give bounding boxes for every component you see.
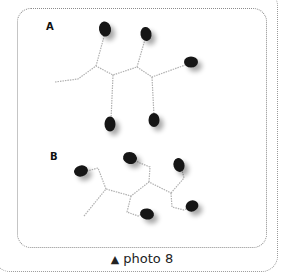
molecule-models-illustration — [0, 0, 284, 280]
molecule-b — [84, 160, 188, 216]
triangle-marker-icon: ▲ — [111, 253, 119, 266]
figure-caption: ▲photo 8 — [0, 251, 284, 266]
molecule-a — [55, 33, 188, 120]
caption-text: photo 8 — [123, 251, 173, 266]
molecule-b-beads — [73, 150, 200, 220]
